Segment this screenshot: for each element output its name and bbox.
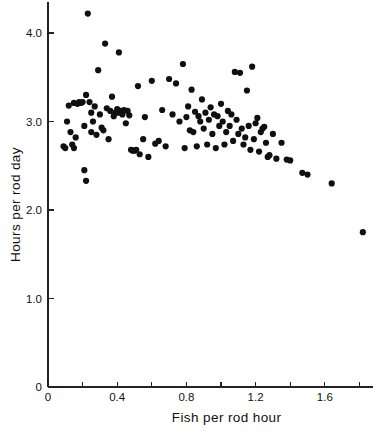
data-point [209,131,215,137]
data-point [126,112,132,118]
data-point [145,154,151,160]
data-point [360,229,366,235]
x-tick-label: 0 [45,391,51,403]
data-point [81,123,87,129]
data-point [62,145,68,151]
plot-canvas: 00.40.81.21.6 01.02.03.04.0 Fish per rod… [0,0,381,433]
data-points-layer [60,10,365,235]
data-point [195,113,201,119]
data-point [208,104,214,110]
data-point [227,123,233,129]
data-point [88,110,94,116]
data-point [140,136,146,142]
data-point [109,94,115,100]
data-point [86,99,92,105]
data-point [304,172,310,178]
data-point [81,167,87,173]
data-point [105,136,111,142]
data-point [249,64,255,70]
data-point [83,92,89,98]
data-point [190,129,196,135]
data-point [235,131,241,137]
data-point [64,118,70,124]
data-point [232,69,238,75]
data-point [270,131,276,137]
data-point [95,67,101,73]
y-tick-label: 3.0 [26,116,42,128]
data-point [159,107,165,113]
data-point [173,80,179,86]
data-point [163,143,169,149]
data-point [100,127,106,133]
data-point [242,134,248,140]
x-axis-title: Fish per rod hour [172,410,282,425]
data-point [214,113,220,119]
y-tick-label: 1.0 [26,293,42,305]
data-point [71,145,77,151]
data-point [266,152,272,158]
data-point [233,117,239,123]
axes-group [48,2,373,387]
data-point [329,180,335,186]
data-point [206,117,212,123]
data-point [156,138,162,144]
data-point [251,136,257,142]
data-point [194,143,200,149]
data-point [183,114,189,120]
data-point [188,87,194,93]
data-point [93,132,99,138]
data-point [240,141,246,147]
data-point [135,83,141,89]
data-point [261,124,267,130]
y-axis-title: Hours per rod day [8,147,23,262]
data-point [166,76,172,82]
data-point [218,101,224,107]
data-point [182,145,188,151]
data-point [221,141,227,147]
data-point [199,96,205,102]
y-tick-label: 2.0 [26,204,42,216]
data-point [204,141,210,147]
data-point [273,156,279,162]
data-point [197,118,203,124]
data-point [254,115,260,121]
x-tick-label: 0.4 [109,391,126,403]
data-point [90,118,96,124]
data-point [169,111,175,117]
data-point [97,111,103,117]
data-point [202,110,208,116]
data-point [149,78,155,84]
data-point [239,125,245,131]
data-point [263,140,269,146]
data-point [278,140,284,146]
data-point [73,134,79,140]
data-point [116,49,122,55]
data-point [180,61,186,67]
y-tick-label: 0 [36,381,42,393]
data-point [213,145,219,151]
data-point [80,99,86,105]
x-tick-label: 1.2 [248,391,264,403]
data-point [67,129,73,135]
x-axis-ticks: 00.40.81.21.6 [45,382,360,403]
data-point [142,114,148,120]
data-point [256,148,262,154]
x-tick-label: 1.6 [317,391,333,403]
data-point [137,151,143,157]
data-point [287,157,293,163]
data-point [176,118,182,124]
y-axis-ticks: 01.02.03.04.0 [26,27,54,393]
data-point [228,111,234,117]
data-point [92,103,98,109]
data-point [185,103,191,109]
data-point [201,125,207,131]
data-point [123,120,129,126]
data-point [230,138,236,144]
data-point [244,87,250,93]
data-point [220,118,226,124]
data-point [247,147,253,153]
scatter-plot-figure: 00.40.81.21.6 01.02.03.04.0 Fish per rod… [0,0,381,433]
data-point [237,70,243,76]
x-tick-label: 0.8 [178,391,194,403]
y-tick-label: 4.0 [26,27,42,39]
